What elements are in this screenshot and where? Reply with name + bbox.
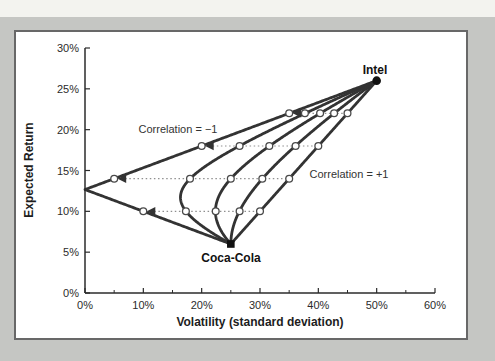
portfolio-marker (302, 110, 309, 117)
y-tick-label: 15% (57, 165, 79, 177)
portfolio-marker (236, 208, 243, 215)
y-tick-label: 5% (63, 246, 79, 258)
portfolio-marker (317, 110, 324, 117)
x-tick-label: 40% (307, 299, 329, 311)
coca-cola-label: Coca-Cola (201, 251, 261, 265)
efficient-frontier-chart: 0%10%20%30%40%50%60%0%5%10%15%20%25%30% … (16, 32, 466, 338)
correlation-plus-one-label: Correlation = +1 (310, 168, 389, 180)
portfolio-marker (286, 110, 293, 117)
x-axis-title: Volatility (standard deviation) (176, 315, 343, 329)
frontier-curves (85, 81, 377, 244)
portfolio-marker (315, 143, 322, 150)
chart-card: 0%10%20%30%40%50%60%0%5%10%15%20%25%30% … (14, 30, 468, 340)
portfolio-marker (286, 175, 293, 182)
portfolio-marker (198, 143, 205, 150)
portfolio-marker (111, 175, 118, 182)
y-axis-title: Expected Return (22, 122, 36, 217)
portfolio-marker (331, 110, 338, 117)
frontier-curve (215, 81, 376, 244)
x-tick-label: 0% (77, 299, 93, 311)
coca-cola-point-marker (227, 240, 235, 248)
portfolio-marker (236, 143, 243, 150)
top-strip (0, 0, 495, 17)
y-tick-label: 25% (57, 83, 79, 95)
intel-point-marker (372, 76, 381, 85)
portfolio-marker (266, 143, 273, 150)
x-tick-label: 10% (132, 299, 154, 311)
y-tick-label: 10% (57, 205, 79, 217)
y-tick-label: 20% (57, 124, 79, 136)
portfolio-marker (257, 208, 264, 215)
x-tick-label: 30% (249, 299, 271, 311)
portfolio-marker (212, 208, 219, 215)
portfolio-marker (187, 175, 194, 182)
y-tick-label: 0% (63, 287, 79, 299)
portfolio-marker (140, 208, 147, 215)
x-tick-label: 50% (366, 299, 388, 311)
x-tick-label: 60% (424, 299, 446, 311)
portfolio-marker (259, 175, 266, 182)
y-tick-label: 30% (57, 42, 79, 54)
portfolio-marker (344, 110, 351, 117)
intel-label: Intel (363, 63, 388, 77)
correlation-minus-one-label: Correlation = −1 (139, 123, 218, 135)
portfolio-marker (183, 208, 190, 215)
portfolio-marker (227, 175, 234, 182)
frontier-curve (231, 81, 377, 244)
portfolio-marker (292, 143, 299, 150)
x-tick-label: 20% (191, 299, 213, 311)
